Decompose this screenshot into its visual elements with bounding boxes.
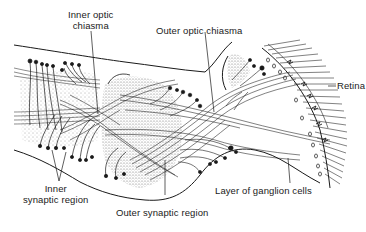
retina [262,40,347,188]
leader-inner-synaptic-a [52,150,59,181]
leader-outer-optic-chiasma [205,32,214,112]
label-outer-optic-chiasma: Outer optic chiasma [156,25,242,36]
label-layer-of-ganglion-cells: Layer of ganglion cells [215,185,312,196]
leader-ganglion [288,158,290,183]
label-retina: Retina [337,80,365,91]
label-inner-optic-chiasma: Inner optic chiasma [68,9,113,31]
leader-inner-synaptic-b [59,152,66,181]
label-inner-synaptic-region-line1: Inner [23,183,88,194]
label-inner-optic-chiasma-line2: chiasma [68,20,113,31]
label-inner-synaptic-region: Inner synaptic region [23,183,88,205]
lamina-stipple [222,54,250,90]
label-outer-synaptic-region: Outer synaptic region [116,207,208,218]
label-inner-optic-chiasma-line1: Inner optic [68,9,113,20]
label-inner-synaptic-region-line2: synaptic region [23,194,88,205]
